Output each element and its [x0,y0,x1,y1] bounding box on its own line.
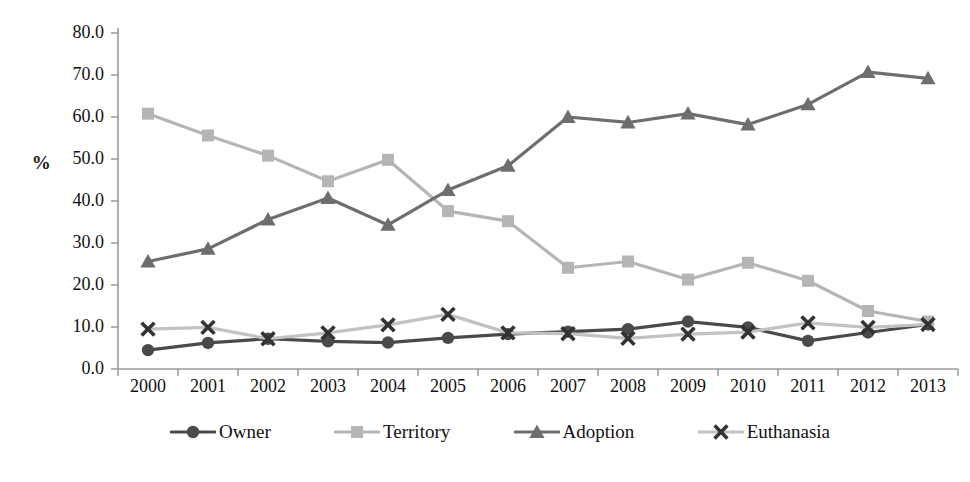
data-point-marker [682,315,694,327]
x-axis-tick-label: 2000 [116,376,180,397]
series-adoption [140,64,935,267]
x-axis-tick-label: 2008 [596,376,660,397]
legend-item-euthanasia[interactable]: Euthanasia [698,421,830,443]
legend-marker-triangle-icon [514,423,560,441]
chart-legend: OwnerTerritoryAdoptionEuthanasia [170,415,830,449]
legend-marker-circle-icon [170,423,216,441]
data-point-marker [442,332,454,344]
data-point-marker [622,255,634,267]
x-axis-tick-label: 2006 [476,376,540,397]
data-point-marker [187,426,199,438]
data-point-marker [382,336,394,348]
data-point-marker [442,205,454,217]
data-point-marker [202,337,214,349]
x-axis-tick-label: 2003 [296,376,360,397]
x-axis-tick-label: 2010 [716,376,780,397]
data-point-marker [351,426,363,438]
legend-marker-square-icon [334,423,380,441]
legend-item-label: Euthanasia [747,421,830,443]
legend-item-label: Territory [383,421,450,443]
x-axis-tick-label: 2002 [236,376,300,397]
data-point-marker [262,150,274,162]
data-point-marker [202,129,214,141]
x-axis-tick-label: 2007 [536,376,600,397]
legend-item-label: Adoption [563,421,635,443]
x-axis-tick-labels: 2000200120022003200420052006200720082009… [118,376,958,404]
legend-item-owner[interactable]: Owner [170,421,271,443]
data-point-marker [682,274,694,286]
legend-marker-holder [187,426,199,438]
line-chart: % 0.010.020.030.040.050.060.070.080.0 20… [0,0,970,482]
x-axis-tick-label: 2011 [776,376,840,397]
data-point-marker [562,262,574,274]
data-point-marker [802,335,814,347]
x-axis-tick-label: 2012 [836,376,900,397]
data-point-marker [680,106,695,120]
data-point-marker [142,108,154,120]
plot-area [0,0,970,482]
legend-item-territory[interactable]: Territory [334,421,450,443]
data-point-marker [382,154,394,166]
data-point-marker [322,175,334,187]
legend-item-label: Owner [219,421,271,443]
x-axis-tick-label: 2009 [656,376,720,397]
data-point-marker [862,305,874,317]
x-axis-tick-label: 2013 [896,376,960,397]
data-point-marker [142,344,154,356]
data-point-marker [802,275,814,287]
x-axis-tick-label: 2005 [416,376,480,397]
data-point-marker [742,257,754,269]
x-axis-tick-label: 2001 [176,376,240,397]
data-point-marker [320,190,335,204]
legend-marker-cross-icon [698,423,744,441]
data-point-marker [800,97,815,111]
series-line [148,72,928,261]
x-axis-tick-label: 2004 [356,376,420,397]
legend-marker-holder [351,426,363,438]
legend-item-adoption[interactable]: Adoption [514,421,635,443]
data-point-marker [502,215,514,227]
